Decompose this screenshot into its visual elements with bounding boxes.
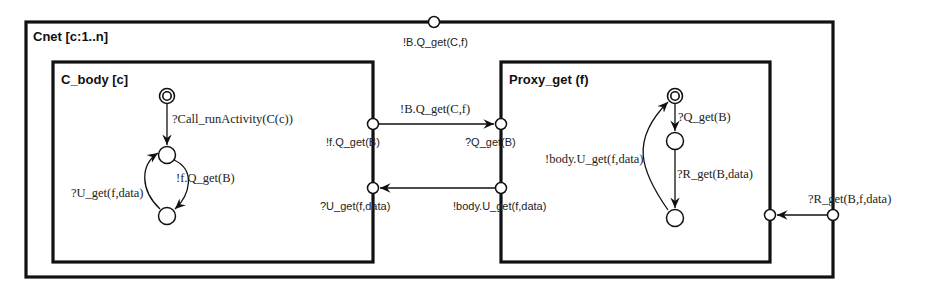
proxy-port-q-in[interactable] <box>496 119 507 130</box>
proxy-state-1[interactable] <box>667 133 684 150</box>
proxy-port-u-out[interactable] <box>496 183 507 194</box>
proxy-initial-state-inner <box>671 92 679 100</box>
proxy-edge-s2-init <box>643 102 668 210</box>
c-body-box <box>53 62 373 262</box>
proxy-label-s2-init: !body.U_get(f,data) <box>545 153 643 166</box>
proxy-get-title: Proxy_get (f) <box>509 73 588 86</box>
cnet-title: Cnet [c:1..n] <box>33 30 108 43</box>
c-body-initial-state-inner <box>163 92 171 100</box>
cnet-port-r-in[interactable] <box>828 210 839 221</box>
c-body-port-q-out[interactable] <box>368 119 379 130</box>
cnet-top-port-label: !B.Q_get(C,f) <box>403 37 468 48</box>
c-body-state-2[interactable] <box>159 208 176 225</box>
c-body-state-1[interactable] <box>159 147 176 164</box>
c-body-port-q-label: !f.Q_get(B) <box>326 137 380 148</box>
cnet-right-port-label: ?R_get(B,f,data) <box>808 193 891 206</box>
connector-q-get-label: !B.Q_get(C,f) <box>400 103 470 116</box>
c-body-label-s1-s2: !f.Q_get(B) <box>176 172 235 185</box>
c-body-edge-s2-s1 <box>145 153 160 209</box>
cnet-box <box>26 22 833 277</box>
c-body-port-u-in[interactable] <box>368 183 379 194</box>
proxy-port-q-label: ?Q_get(B) <box>465 137 516 148</box>
c-body-title: C_body [c] <box>61 73 128 86</box>
proxy-state-2[interactable] <box>667 210 684 227</box>
proxy-label-s1-s2: ?R_get(B,data) <box>677 168 753 181</box>
c-body-label-s2-s1: ?U_get(f,data) <box>71 187 144 200</box>
proxy-port-r-in[interactable] <box>765 210 776 221</box>
c-body-port-u-label: ?U_get(f,data) <box>320 201 390 212</box>
c-body-label-init-s1: ?Call_runActivity(C(c)) <box>172 113 293 126</box>
cnet-top-port[interactable] <box>429 17 440 28</box>
proxy-label-init-s1: ?Q_get(B) <box>678 111 731 124</box>
proxy-port-u-label: !body.U_get(f,data) <box>453 201 546 212</box>
